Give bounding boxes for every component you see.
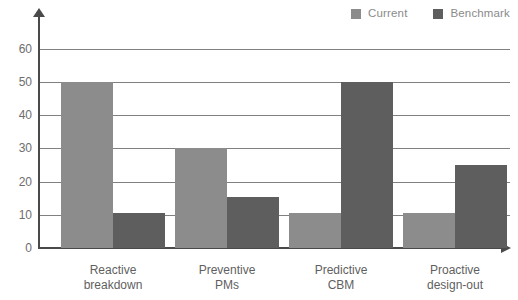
bar-current-3[interactable] (403, 213, 455, 248)
bars-layer (0, 0, 518, 248)
bar-current-2[interactable] (289, 213, 341, 248)
bar-current-0[interactable] (61, 82, 113, 248)
bar-benchmark-3[interactable] (455, 165, 507, 248)
x-label-3: Proactivedesign-out (398, 263, 512, 293)
x-label-2: PredictiveCBM (284, 263, 398, 293)
bar-benchmark-0[interactable] (113, 213, 165, 248)
bar-chart: Current Benchmark 0102030405060 Reactive… (0, 0, 518, 300)
x-label-1: PreventivePMs (170, 263, 284, 293)
bar-benchmark-1[interactable] (227, 197, 279, 249)
x-label-0: Reactivebreakdown (56, 263, 170, 293)
x-axis-category-labels: ReactivebreakdownPreventivePMsPredictive… (0, 255, 518, 300)
bar-current-1[interactable] (175, 148, 227, 248)
plot-area: 0102030405060 ReactivebreakdownPreventiv… (0, 0, 518, 300)
bar-benchmark-2[interactable] (341, 82, 393, 248)
